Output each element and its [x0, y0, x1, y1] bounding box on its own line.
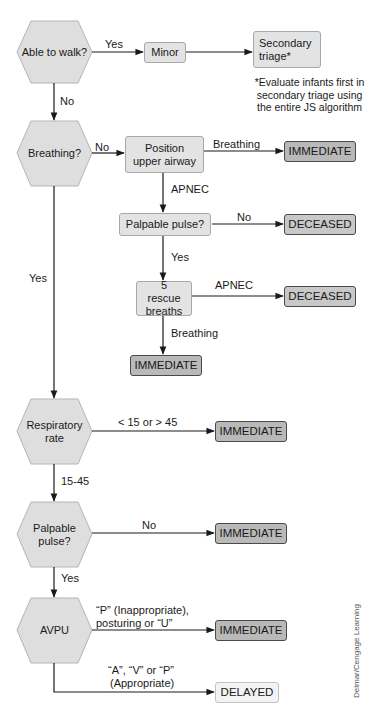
edge-label-airway-breathing: Breathing	[213, 138, 260, 151]
image-credit: Delmar/Cengage Learning	[352, 604, 361, 698]
outcome-immediate-rescue: IMMEDIATE	[130, 355, 202, 376]
edge-label-rescue-apnec: APNEC	[215, 279, 253, 292]
triage-flowchart: Able to walk? Breathing? Respiratory rat…	[0, 0, 379, 711]
edge-label-pulse-no: No	[142, 519, 156, 532]
step-palpable-pulse: Palpable pulse?	[119, 213, 211, 236]
edge-label-walk-yes: Yes	[105, 38, 123, 51]
edge-label-avpu-appropriate-1: “A”, “V” or “P”	[108, 664, 174, 677]
edge-label-avpu-inappropriate-2: posturing or “U”	[96, 617, 172, 630]
decision-respiratory-rate: Respiratory rate	[24, 399, 85, 464]
footnote-line-3: the entire JS algorithm	[240, 101, 379, 114]
outcome-delayed: DELAYED	[215, 682, 279, 703]
step-minor: Minor	[144, 42, 186, 63]
outcome-immediate-pulse: IMMEDIATE	[215, 523, 287, 544]
outcome-deceased-pulse: DECEASED	[284, 214, 356, 235]
step-5-rescue-breaths: 5 rescue breaths	[136, 281, 192, 316]
edge-label-breathing-no: No	[95, 141, 109, 154]
edge-label-avpu-appropriate-2: (Appropriate)	[110, 677, 174, 690]
edge-label-breathing-yes: Yes	[29, 272, 47, 285]
edge-label-pulse-step-no: No	[237, 211, 251, 224]
outcome-immediate-avpu: IMMEDIATE	[215, 620, 287, 641]
edge-label-airway-apnec: APNEC	[171, 183, 209, 196]
footnote-line-2: secondary triage using	[240, 89, 379, 102]
step-position-upper-airway: Position upper airway	[125, 136, 204, 173]
outcome-immediate-rate: IMMEDIATE	[215, 421, 287, 442]
edge-label-pulse-step-yes: Yes	[171, 251, 189, 264]
edge-label-walk-no: No	[60, 95, 74, 108]
outcome-immediate-airway: IMMEDIATE	[284, 141, 356, 162]
edge-label-rescue-breathing: Breathing	[171, 327, 218, 340]
outcome-deceased-rescue: DECEASED	[284, 286, 356, 307]
footnote-line-1: *Evaluate infants first in	[240, 76, 379, 89]
decision-able-to-walk: Able to walk?	[17, 21, 92, 83]
decision-palpable-pulse: Palpable pulse?	[28, 502, 81, 567]
step-secondary-triage: Secondary triage*	[253, 31, 321, 68]
edge-label-rate-normal: 15-45	[61, 475, 89, 488]
edge-label-avpu-inappropriate-1: “P” (Inappropriate),	[96, 604, 189, 617]
edge-label-pulse-yes: Yes	[61, 572, 79, 585]
edge-label-rate-abnormal: < 15 or > 45	[118, 416, 177, 429]
footnote: *Evaluate infants first in secondary tri…	[240, 76, 379, 114]
decision-avpu: AVPU	[17, 598, 92, 663]
decision-breathing: Breathing?	[17, 121, 92, 186]
